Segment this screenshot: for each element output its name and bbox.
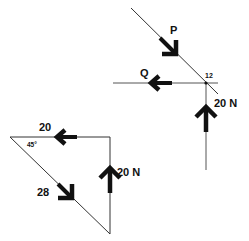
force-triangle: 20 45° 20 N 28 [10,121,140,234]
top-side-label: 20 [39,121,51,133]
weight-label: 20 N [214,97,237,109]
space-diagram: P Q 12 20 N [113,8,237,170]
p-arrow-icon [160,38,176,54]
angle-label: 45° [27,141,37,148]
q-arrow-icon [151,76,172,90]
weight-arrow-icon [196,107,216,132]
force-diagram: P Q 12 20 N 20 45° 20 N [0,0,249,241]
hypotenuse-arrow-icon [58,184,72,198]
top-arrow-icon [57,130,77,144]
q-label: Q [140,67,149,79]
hypotenuse-label: 28 [37,186,49,198]
point-label: 12 [205,72,213,79]
junction-point [204,81,207,84]
p-label: P [170,24,177,36]
right-side-label: 20 N [117,166,140,178]
